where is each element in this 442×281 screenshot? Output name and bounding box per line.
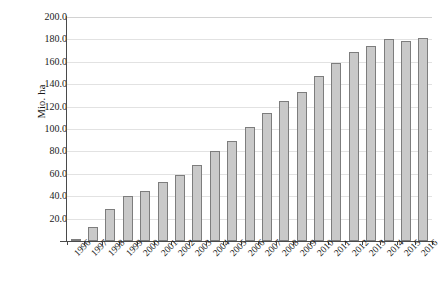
bar — [401, 41, 411, 241]
y-axis-tick-label: 20.0 — [27, 214, 67, 224]
y-axis-tick-label: 60.0 — [27, 169, 67, 179]
bar — [192, 165, 202, 241]
bar — [227, 141, 237, 241]
bar — [331, 63, 341, 241]
bar-chart: Mio. ha 200.0180.0160.0140.0120.0100.080… — [0, 0, 442, 281]
bar — [210, 151, 220, 241]
bar — [158, 182, 168, 241]
bar — [366, 46, 376, 241]
y-axis-tick-label: 160.0 — [27, 57, 67, 67]
bar — [140, 191, 150, 241]
y-axis-tick-label: 140.0 — [27, 79, 67, 89]
bar — [123, 196, 133, 241]
y-axis-tick-label: 40.0 — [27, 191, 67, 201]
y-axis-tick-label: 200.0 — [27, 12, 67, 22]
bar — [105, 209, 115, 241]
bar — [418, 38, 428, 241]
y-axis-tick-label: 100.0 — [27, 124, 67, 134]
bar — [175, 175, 185, 241]
bar — [349, 52, 359, 241]
bar — [88, 227, 98, 241]
x-axis-label-group: 1996199719981999200020012002200320042005… — [67, 243, 435, 281]
bar — [297, 92, 307, 241]
bar — [279, 101, 289, 241]
bar — [384, 39, 394, 241]
y-axis-tick-label: 120.0 — [27, 102, 67, 112]
bar — [245, 127, 255, 241]
bar — [262, 113, 272, 241]
y-axis-tick-group: 200.0180.0160.0140.0120.0100.080.060.040… — [20, 0, 67, 281]
y-axis-tick-label: 180.0 — [27, 34, 67, 44]
bar — [314, 76, 324, 241]
y-axis-tick-label: 80.0 — [27, 146, 67, 156]
